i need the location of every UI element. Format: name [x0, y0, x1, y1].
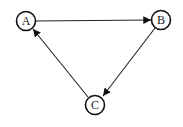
- node-a: A: [17, 12, 36, 31]
- edge-a-to-b: [35, 20, 151, 21]
- node-b-label: B: [157, 13, 165, 27]
- node-b: B: [152, 11, 171, 30]
- graph-diagram: A B C: [0, 0, 183, 127]
- node-c: C: [86, 96, 105, 115]
- edge-c-to-a: [33, 29, 88, 97]
- node-c-label: C: [91, 98, 99, 112]
- edge-b-to-c: [103, 28, 155, 96]
- node-a-label: A: [22, 14, 31, 28]
